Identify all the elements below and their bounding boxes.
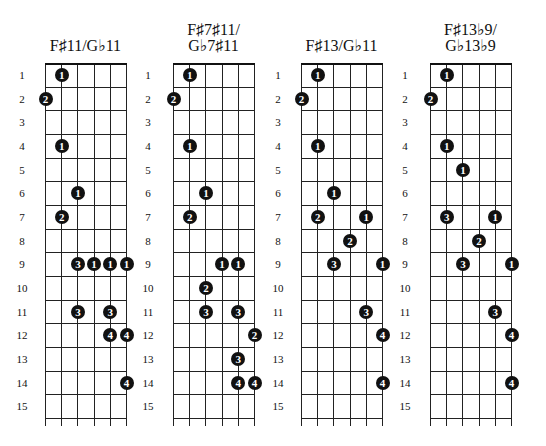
- chord-diagram: F♯13♭9/G♭13♭9123456789101112131415121131…: [0, 0, 546, 446]
- fret-line: [430, 110, 512, 111]
- fret-number-label: 5: [395, 164, 415, 176]
- finger-dot: 4: [505, 328, 519, 342]
- fret-number-label: 15: [395, 400, 415, 412]
- finger-dot: 3: [456, 257, 470, 271]
- fret-number-label: 10: [395, 282, 415, 294]
- fret-number-label: 12: [395, 329, 415, 341]
- fret-line: [430, 229, 512, 230]
- finger-dot: 1: [440, 68, 454, 82]
- fret-number-label: 6: [395, 187, 415, 199]
- fret-number-label: 3: [395, 116, 415, 128]
- chord-title-line: G♭13♭9: [400, 38, 541, 54]
- fret-line: [430, 205, 512, 206]
- fret-line: [430, 87, 512, 88]
- fretboard-grid: [430, 63, 512, 426]
- fret-line: [430, 181, 512, 182]
- fret-line: [430, 371, 512, 372]
- fret-number-label: 8: [395, 235, 415, 247]
- fret-line: [430, 418, 512, 419]
- finger-dot: 1: [440, 139, 454, 153]
- finger-dot: 2: [472, 234, 486, 248]
- finger-dot: 1: [456, 163, 470, 177]
- fret-line: [430, 134, 512, 135]
- fret-line: [430, 347, 512, 348]
- finger-dot: 2: [424, 92, 438, 106]
- fret-number-label: 13: [395, 353, 415, 365]
- chord-title: F♯13♭9/G♭13♭9: [400, 22, 541, 54]
- finger-dot: 1: [505, 257, 519, 271]
- fret-line: [430, 158, 512, 159]
- fret-number-label: 11: [395, 306, 415, 318]
- fret-line: [430, 323, 512, 324]
- fret-number-label: 14: [395, 377, 415, 389]
- fret-line: [430, 300, 512, 301]
- fret-number-label: 2: [395, 93, 415, 105]
- fret-line: [430, 276, 512, 277]
- fret-number-label: 9: [395, 258, 415, 270]
- chord-title-line: F♯13♭9/: [400, 22, 541, 38]
- fret-line: [430, 252, 512, 253]
- nut-line: [430, 63, 512, 65]
- fret-number-label: 7: [395, 211, 415, 223]
- finger-dot: 3: [488, 305, 502, 319]
- fret-number-label: 4: [395, 140, 415, 152]
- fret-number-label: 1: [395, 69, 415, 81]
- finger-dot: 4: [505, 376, 519, 390]
- fret-line: [430, 394, 512, 395]
- finger-dot: 3: [440, 210, 454, 224]
